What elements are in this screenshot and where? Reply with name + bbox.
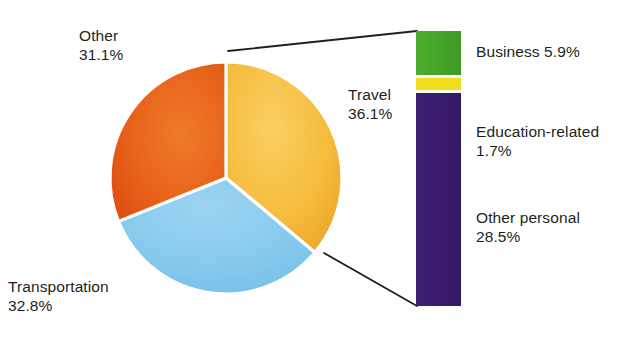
pie-label-other: Other 31.1%	[79, 26, 123, 64]
pie-label-transportation: Transportation 32.8%	[8, 277, 109, 315]
bar-segment-education-related[interactable]	[416, 78, 461, 91]
bar-segment-business[interactable]	[416, 31, 461, 75]
bar-label-other-personal: Other personal 28.5%	[476, 208, 580, 246]
pie-label-travel-name: Travel	[348, 86, 391, 103]
bar-label-education-related-value: 1.7%	[476, 141, 599, 160]
bar-label-other-personal-name: Other personal	[476, 209, 580, 226]
bar-label-education-related: Education-related 1.7%	[476, 122, 599, 160]
pie-label-transportation-name: Transportation	[8, 278, 109, 295]
bar-label-business-text: Business 5.9%	[476, 43, 580, 60]
pie-label-transportation-value: 32.8%	[8, 296, 109, 315]
bar-segment-divider-2	[416, 90, 461, 93]
bar-label-other-personal-value: 28.5%	[476, 227, 580, 246]
bar-segment-divider-1	[416, 75, 461, 78]
bar-segment-other-personal[interactable]	[416, 93, 461, 306]
bar-label-education-related-name: Education-related	[476, 123, 599, 140]
breakout-bar-group	[416, 31, 461, 306]
pie-chart-figure: Other 31.1% Transportation 32.8% Travel …	[0, 0, 643, 347]
pie-group	[110, 62, 342, 294]
pie-label-other-value: 31.1%	[79, 45, 123, 64]
pie-label-other-name: Other	[79, 27, 118, 44]
bar-label-business: Business 5.9%	[476, 42, 580, 61]
leader-line-bottom	[324, 253, 417, 306]
leader-line-top	[228, 31, 417, 51]
pie-label-travel-value: 36.1%	[348, 104, 392, 123]
pie-label-travel: Travel 36.1%	[348, 85, 392, 123]
